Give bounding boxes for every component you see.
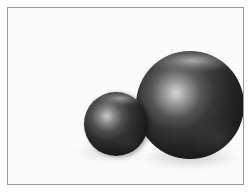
render-canvas bbox=[8, 8, 243, 184]
large-sphere bbox=[136, 51, 243, 159]
small-sphere bbox=[84, 92, 148, 156]
figure-container bbox=[0, 0, 252, 193]
image-border bbox=[7, 7, 244, 185]
